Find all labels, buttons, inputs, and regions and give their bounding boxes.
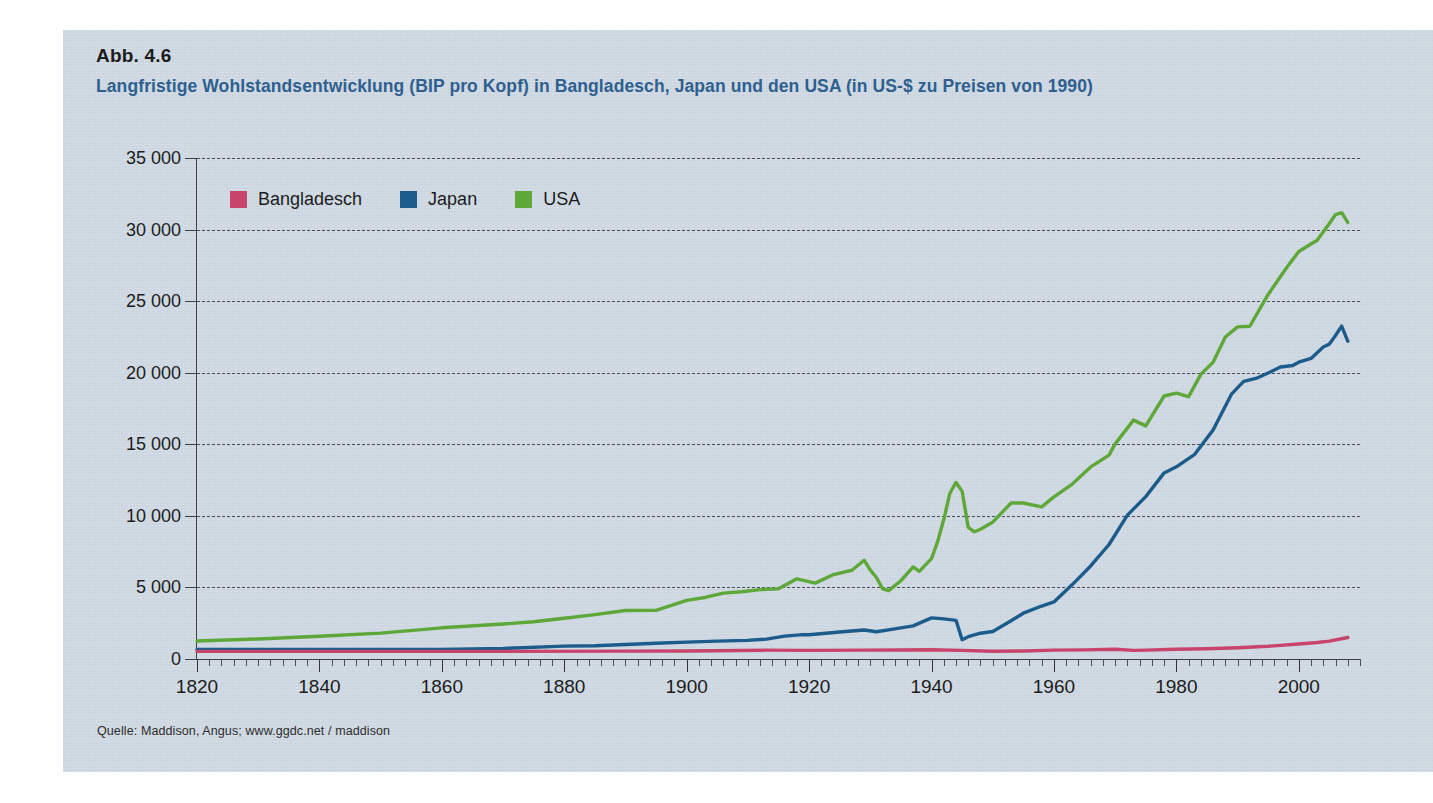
x-axis-minor-tick (307, 659, 308, 666)
x-axis-minor-tick (454, 659, 455, 666)
x-axis-minor-tick (1336, 659, 1337, 666)
x-axis-minor-tick (344, 659, 345, 666)
x-axis-minor-tick (723, 659, 724, 666)
x-axis-minor-tick (1287, 659, 1288, 666)
series-line-japan (197, 326, 1348, 649)
x-axis-minor-tick (528, 659, 529, 666)
legend-label: Japan (428, 189, 477, 210)
x-axis-minor-tick (1091, 659, 1092, 666)
x-axis-minor-tick (1152, 659, 1153, 666)
x-axis-minor-tick (919, 659, 920, 666)
x-axis-label: 1860 (421, 676, 463, 698)
source-note: Quelle: Maddison, Angus; www.ggdc.net / … (97, 724, 390, 738)
x-axis-minor-tick (1042, 659, 1043, 666)
x-axis-minor-tick (748, 659, 749, 666)
x-axis-minor-tick (234, 659, 235, 666)
y-axis-label: 0 (171, 649, 181, 670)
x-axis-minor-tick (466, 659, 467, 666)
x-axis-minor-tick (613, 659, 614, 666)
x-axis-minor-tick (1360, 659, 1361, 666)
x-axis-minor-tick (846, 659, 847, 666)
figure-root: Abb. 4.6 Langfristige Wohlstandsentwickl… (0, 0, 1433, 803)
x-axis-minor-tick (209, 659, 210, 666)
legend-label: USA (543, 189, 580, 210)
x-axis-minor-tick (711, 659, 712, 666)
x-axis-minor-tick (1103, 659, 1104, 666)
x-axis-minor-tick (1017, 659, 1018, 666)
figure-number: Abb. 4.6 (96, 45, 172, 67)
x-axis-minor-tick (393, 659, 394, 666)
x-axis-major-tick (442, 659, 443, 672)
x-axis-minor-tick (662, 659, 663, 666)
x-axis-major-tick (1054, 659, 1055, 672)
x-axis-minor-tick (1238, 659, 1239, 666)
x-axis-minor-tick (760, 659, 761, 666)
y-axis-label: 30 000 (126, 219, 181, 240)
x-axis-minor-tick (295, 659, 296, 666)
x-axis-line (196, 659, 1360, 660)
x-axis-minor-tick (625, 659, 626, 666)
x-axis-minor-tick (1213, 659, 1214, 666)
x-axis-minor-tick (552, 659, 553, 666)
x-axis-minor-tick (1164, 659, 1165, 666)
x-axis-minor-tick (332, 659, 333, 666)
x-axis-minor-tick (993, 659, 994, 666)
x-axis-label: 1980 (1155, 676, 1197, 698)
x-axis-minor-tick (1029, 659, 1030, 666)
x-axis-minor-tick (515, 659, 516, 666)
x-axis-label: 1920 (788, 676, 830, 698)
y-axis-label: 35 000 (126, 148, 181, 169)
legend-item-japan[interactable]: Japan (400, 189, 477, 210)
legend-item-bangladesch[interactable]: Bangladesch (230, 189, 362, 210)
legend-swatch-icon (515, 191, 532, 208)
legend-swatch-icon (230, 191, 247, 208)
x-axis-major-tick (687, 659, 688, 672)
x-axis-major-tick (1299, 659, 1300, 672)
x-axis-minor-tick (491, 659, 492, 666)
x-axis-label: 1900 (666, 676, 708, 698)
x-axis-minor-tick (283, 659, 284, 666)
figure-title: Langfristige Wohlstandsentwicklung (BIP … (96, 76, 1093, 97)
x-axis-minor-tick (1189, 659, 1190, 666)
x-axis-minor-tick (907, 659, 908, 666)
x-axis-minor-tick (1311, 659, 1312, 666)
x-axis-minor-tick (479, 659, 480, 666)
x-axis-minor-tick (638, 659, 639, 666)
x-axis-label: 1820 (176, 676, 218, 698)
x-axis-minor-tick (368, 659, 369, 666)
x-axis-minor-tick (797, 659, 798, 666)
x-axis-minor-tick (870, 659, 871, 666)
y-axis-label: 15 000 (126, 434, 181, 455)
x-axis-minor-tick (1005, 659, 1006, 666)
x-axis-minor-tick (883, 659, 884, 666)
series-line-usa (197, 213, 1348, 641)
x-axis-minor-tick (405, 659, 406, 666)
x-axis-minor-tick (356, 659, 357, 666)
x-axis-major-tick (319, 659, 320, 672)
x-axis-major-tick (1176, 659, 1177, 672)
legend-label: Bangladesch (258, 189, 362, 210)
x-axis-label: 1840 (298, 676, 340, 698)
legend-item-usa[interactable]: USA (515, 189, 580, 210)
x-axis-minor-tick (736, 659, 737, 666)
x-axis-minor-tick (1127, 659, 1128, 666)
chart-legend: BangladeschJapanUSA (230, 189, 618, 210)
x-axis-minor-tick (503, 659, 504, 666)
x-axis-label: 1960 (1033, 676, 1075, 698)
x-axis-minor-tick (577, 659, 578, 666)
x-axis-minor-tick (1066, 659, 1067, 666)
x-axis-minor-tick (601, 659, 602, 666)
x-axis-minor-tick (1323, 659, 1324, 666)
x-axis-minor-tick (785, 659, 786, 666)
x-axis-minor-tick (1078, 659, 1079, 666)
x-axis-minor-tick (650, 659, 651, 666)
x-axis-minor-tick (1115, 659, 1116, 666)
x-axis-minor-tick (1201, 659, 1202, 666)
x-axis-minor-tick (1140, 659, 1141, 666)
x-axis-minor-tick (258, 659, 259, 666)
x-axis-minor-tick (246, 659, 247, 666)
x-axis-minor-tick (674, 659, 675, 666)
x-axis-major-tick (809, 659, 810, 672)
y-axis-label: 25 000 (126, 291, 181, 312)
x-axis-label: 2000 (1278, 676, 1320, 698)
